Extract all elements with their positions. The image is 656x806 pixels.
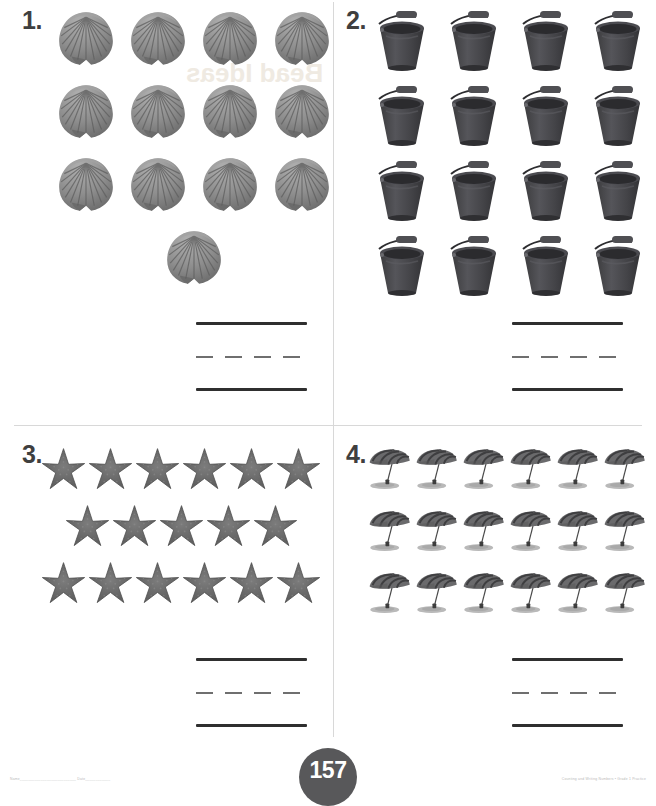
starfish-icon xyxy=(275,440,322,497)
answer-line-bottom[interactable] xyxy=(512,724,623,727)
scallop-shell-icon xyxy=(50,2,122,75)
footer-right-note: Counting and Writing Numbers • Grade 1 P… xyxy=(562,777,646,781)
starfish-icon xyxy=(87,554,134,611)
page-number-badge: 157 xyxy=(299,748,357,806)
starfish-icon xyxy=(275,554,322,611)
beach-umbrella-icon xyxy=(365,438,412,500)
bucket-icon xyxy=(582,152,654,227)
object-row xyxy=(365,438,647,500)
question-4: 4. xyxy=(334,426,656,741)
beach-umbrella-icon xyxy=(459,500,506,562)
scallop-shell-icon xyxy=(50,148,122,221)
beach-umbrella-icon xyxy=(600,500,647,562)
scallop-shell-icon xyxy=(122,75,194,148)
question-1-number: 1. xyxy=(22,6,42,35)
question-2-answer-lines[interactable] xyxy=(512,322,623,391)
beach-umbrella-icon xyxy=(459,562,506,624)
bucket-icon xyxy=(510,152,582,227)
bucket-icon xyxy=(582,77,654,152)
question-2-number: 2. xyxy=(346,6,366,35)
answer-line-bottom[interactable] xyxy=(512,388,623,391)
starfish-icon xyxy=(228,440,275,497)
bucket-icon xyxy=(366,152,438,227)
beach-umbrella-icon xyxy=(412,562,459,624)
bucket-icon xyxy=(510,77,582,152)
beach-umbrella-icon xyxy=(365,500,412,562)
question-4-answer-lines[interactable] xyxy=(512,658,623,727)
question-2: 2. xyxy=(334,0,656,425)
object-row xyxy=(365,562,647,624)
bucket-icon xyxy=(510,2,582,77)
question-3-number: 3. xyxy=(22,440,42,469)
question-3-answer-lines[interactable] xyxy=(196,658,307,727)
starfish-icon xyxy=(40,440,87,497)
object-row xyxy=(50,2,338,75)
object-row xyxy=(158,221,230,294)
object-row xyxy=(366,152,654,227)
starfish-icon xyxy=(134,554,181,611)
scallop-shell-icon xyxy=(122,2,194,75)
beach-umbrella-icon xyxy=(365,562,412,624)
question-3: 3. xyxy=(0,426,333,741)
starfish-icon xyxy=(40,554,87,611)
bucket-icon xyxy=(366,227,438,302)
starfish-icon xyxy=(181,440,228,497)
beach-umbrella-icon xyxy=(553,438,600,500)
question-1: 1. Bead Ideas xyxy=(0,0,333,425)
object-row xyxy=(64,497,299,554)
beach-umbrella-icon xyxy=(412,500,459,562)
question-4-objects xyxy=(365,438,647,624)
object-row xyxy=(40,554,322,611)
object-row xyxy=(40,440,322,497)
starfish-icon xyxy=(158,497,205,554)
starfish-icon xyxy=(87,440,134,497)
starfish-icon xyxy=(111,497,158,554)
scallop-shell-icon xyxy=(266,2,338,75)
starfish-icon xyxy=(134,440,181,497)
question-4-number: 4. xyxy=(346,440,366,469)
beach-umbrella-icon xyxy=(506,562,553,624)
starfish-icon xyxy=(205,497,252,554)
beach-umbrella-icon xyxy=(600,438,647,500)
scallop-shell-icon xyxy=(266,148,338,221)
beach-umbrella-icon xyxy=(412,438,459,500)
bucket-icon xyxy=(582,227,654,302)
starfish-icon xyxy=(64,497,111,554)
scallop-shell-icon xyxy=(50,75,122,148)
beach-umbrella-icon xyxy=(600,562,647,624)
object-row xyxy=(366,227,654,302)
scallop-shell-icon xyxy=(158,221,230,294)
scallop-shell-icon xyxy=(266,75,338,148)
scallop-shell-icon xyxy=(194,2,266,75)
beach-umbrella-icon xyxy=(553,562,600,624)
bucket-icon xyxy=(438,227,510,302)
starfish-icon xyxy=(181,554,228,611)
bucket-icon xyxy=(366,2,438,77)
object-row xyxy=(365,500,647,562)
beach-umbrella-icon xyxy=(506,500,553,562)
starfish-icon xyxy=(228,554,275,611)
answer-line-bottom[interactable] xyxy=(196,388,307,391)
question-1-answer-lines[interactable] xyxy=(196,322,307,391)
bucket-icon xyxy=(438,152,510,227)
object-row xyxy=(366,2,654,77)
question-3-objects xyxy=(40,440,322,611)
scallop-shell-icon xyxy=(194,148,266,221)
footer-left-note: Name___________________________ Date____… xyxy=(10,777,110,781)
question-1-objects xyxy=(50,2,338,294)
question-2-objects xyxy=(366,2,654,302)
object-row xyxy=(50,148,338,221)
beach-umbrella-icon xyxy=(553,500,600,562)
object-row xyxy=(50,75,338,148)
beach-umbrella-icon xyxy=(459,438,506,500)
starfish-icon xyxy=(252,497,299,554)
answer-line-bottom[interactable] xyxy=(196,724,307,727)
bucket-icon xyxy=(366,77,438,152)
scallop-shell-icon xyxy=(122,148,194,221)
bucket-icon xyxy=(582,2,654,77)
beach-umbrella-icon xyxy=(506,438,553,500)
bucket-icon xyxy=(510,227,582,302)
object-row xyxy=(366,77,654,152)
bucket-icon xyxy=(438,77,510,152)
